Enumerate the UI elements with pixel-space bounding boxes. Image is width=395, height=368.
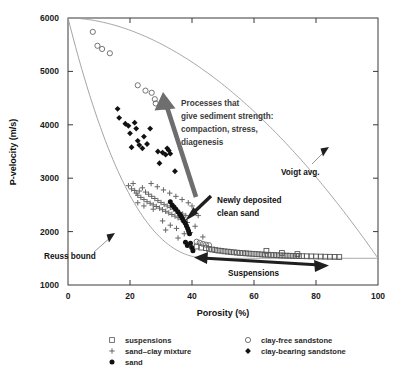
y-tick-label: 3000	[40, 173, 59, 183]
y-axis-title: P-velocity (m/s)	[8, 119, 18, 186]
x-tick-label: 100	[371, 291, 385, 301]
x-tick-label: 60	[249, 291, 259, 301]
y-tick-label: 1000	[40, 280, 59, 290]
y-tick-label: 6000	[40, 13, 59, 23]
legend-label: clay-bearing sandstone	[261, 347, 346, 356]
processes-line-1: Processes that	[181, 99, 240, 108]
x-axis-title: Porosity (%)	[197, 308, 250, 318]
x-tick-label: 80	[311, 291, 321, 301]
y-tick-label: 2000	[40, 227, 59, 237]
voigt-label: Voigt avg.	[281, 168, 320, 177]
x-tick-label: 0	[66, 291, 71, 301]
x-tick-label: 20	[125, 291, 135, 301]
legend-label: clay-free sandstone	[261, 336, 332, 345]
newly-deposited-line-2: clean sand	[217, 209, 259, 218]
legend-label: suspensions	[125, 336, 171, 345]
data-point	[190, 248, 195, 253]
legend-label: sand	[125, 358, 143, 367]
x-tick-label: 40	[187, 291, 197, 301]
newly-deposited-line-1: Newly deposited	[217, 196, 282, 205]
suspensions-label: Suspensions	[228, 269, 279, 278]
processes-line-3: compaction, stress,	[181, 125, 258, 134]
velocity-porosity-crossplot: 020406080100100020003000400050006000	[0, 0, 395, 368]
y-tick-label: 5000	[40, 66, 59, 76]
data-point	[183, 240, 188, 245]
processes-line-2: give sediment strength:	[181, 112, 273, 121]
legend-label: sand–clay mixture	[125, 347, 191, 356]
chart-root: 020406080100100020003000400050006000	[0, 0, 395, 368]
processes-line-4: diagenesis	[181, 138, 224, 147]
legend-marker-filled-circle	[110, 360, 115, 365]
reuss-label: Reuss bound	[44, 252, 96, 261]
y-tick-label: 4000	[40, 120, 59, 130]
data-point	[187, 231, 192, 236]
